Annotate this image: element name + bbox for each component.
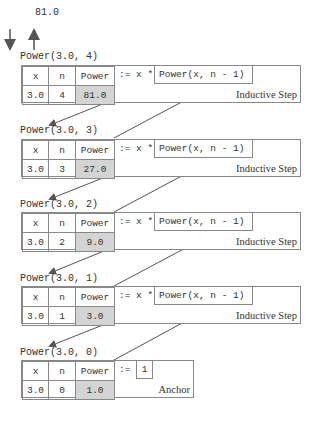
- value-n: 4: [49, 86, 76, 105]
- assign-expr: := x *: [115, 213, 153, 231]
- header-power: Power: [76, 214, 115, 233]
- header-x: x: [23, 141, 49, 160]
- step-label: Inductive Step: [236, 236, 297, 247]
- header-x: x: [23, 288, 49, 307]
- header-n: n: [49, 362, 76, 381]
- stack-frame: xnPower 3.0327.0 := x * Power(x, n - 1) …: [21, 139, 301, 177]
- stack-frame: xnPower 3.0481.0 := x * Power(x, n - 1) …: [21, 65, 301, 103]
- step-label: Inductive Step: [236, 163, 297, 174]
- value-n: 1: [49, 307, 76, 326]
- header-n: n: [49, 214, 76, 233]
- value-power: 9.0: [76, 233, 115, 252]
- recursive-call-box: Power(x, n - 1): [154, 212, 253, 231]
- final-result: 81.0: [35, 7, 59, 18]
- value-x: 3.0: [23, 307, 49, 326]
- header-n: n: [49, 141, 76, 160]
- step-label: Inductive Step: [236, 310, 297, 321]
- call-label: Power(3.0, 1): [20, 273, 98, 284]
- call-label: Power(3.0, 0): [20, 347, 98, 358]
- value-x: 3.0: [23, 86, 49, 105]
- anchor-frame: xnPower 3.001.0 := 1 Anchor: [21, 360, 194, 398]
- call-label: Power(3.0, 2): [20, 199, 98, 210]
- value-power: 81.0: [76, 86, 115, 105]
- header-power: Power: [76, 67, 115, 86]
- value-x: 3.0: [23, 381, 49, 400]
- assign-expr: := x *: [115, 140, 153, 158]
- value-n: 3: [49, 160, 76, 179]
- recursive-call-box: Power(x, n - 1): [154, 286, 253, 305]
- value-n: 2: [49, 233, 76, 252]
- header-x: x: [23, 214, 49, 233]
- header-n: n: [49, 67, 76, 86]
- header-power: Power: [76, 362, 115, 381]
- value-power: 3.0: [76, 307, 115, 326]
- call-label: Power(3.0, 3): [20, 125, 98, 136]
- recursive-call-box: Power(x, n - 1): [154, 65, 253, 84]
- value-x: 3.0: [23, 233, 49, 252]
- stack-frame: xnPower 3.013.0 := x * Power(x, n - 1) I…: [21, 286, 301, 324]
- assign-expr: :=: [115, 361, 130, 379]
- value-x: 3.0: [23, 160, 49, 179]
- header-x: x: [23, 67, 49, 86]
- header-x: x: [23, 362, 49, 381]
- stack-frame: xnPower 3.029.0 := x * Power(x, n - 1) I…: [21, 212, 301, 250]
- value-power: 1.0: [76, 381, 115, 400]
- value-power: 27.0: [76, 160, 115, 179]
- assign-expr: := x *: [115, 66, 153, 84]
- call-label: Power(3.0, 4): [20, 51, 98, 62]
- header-power: Power: [76, 141, 115, 160]
- header-n: n: [49, 288, 76, 307]
- step-label: Inductive Step: [236, 89, 297, 100]
- value-n: 0: [49, 381, 76, 400]
- step-label: Anchor: [159, 384, 191, 395]
- recursive-call-box: Power(x, n - 1): [154, 139, 253, 158]
- assign-expr: := x *: [115, 287, 153, 305]
- header-power: Power: [76, 288, 115, 307]
- anchor-value-box: 1: [136, 360, 153, 379]
